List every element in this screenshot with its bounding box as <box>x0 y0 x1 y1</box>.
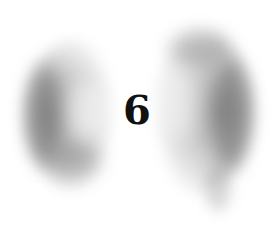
numeral-card: 6 <box>0 0 274 226</box>
right-smudge-tail <box>205 165 231 211</box>
left-smudge-bottom <box>50 140 100 178</box>
numeral-six: 6 <box>0 88 274 132</box>
right-smudge-top <box>170 32 230 66</box>
